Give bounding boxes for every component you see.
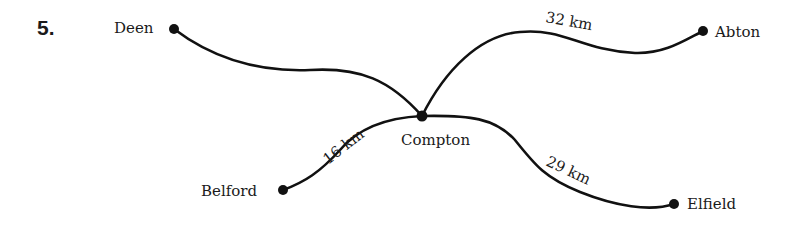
label-belford: Belford (201, 182, 257, 200)
label-abton: Abton (714, 23, 760, 41)
road-map-diagram: 5. Deen Abton Compton Belford Elfield 32… (0, 0, 809, 230)
distance-compton-elfield: 29 km (543, 152, 593, 188)
node-compton (417, 111, 428, 122)
road-compton-abton (422, 31, 703, 116)
node-deen (169, 24, 179, 34)
label-deen: Deen (114, 19, 154, 37)
node-elfield (669, 199, 679, 209)
question-number: 5. (37, 16, 55, 39)
node-belford (278, 185, 288, 195)
label-elfield: Elfield (687, 195, 736, 213)
road-deen-compton (174, 29, 422, 116)
label-compton: Compton (401, 131, 470, 149)
node-abton (698, 26, 708, 36)
distance-compton-abton: 32 km (544, 8, 594, 34)
distance-compton-belford: 16 km (319, 125, 367, 168)
